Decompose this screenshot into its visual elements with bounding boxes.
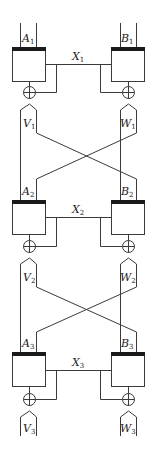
box-b2-bar: [111, 200, 145, 204]
label-b2: B2: [120, 185, 134, 199]
stage-3: A3 B3 X3 V3 W3: [12, 337, 145, 436]
label-x3: X3: [71, 356, 84, 370]
box-a2: [13, 202, 46, 235]
label-v2: V2: [23, 271, 35, 285]
box-a2-bar: [12, 200, 46, 204]
box-b3: [112, 354, 145, 387]
label-v3: V3: [23, 422, 35, 436]
label-b3: B3: [120, 337, 134, 351]
stage-1: A1 B1 X1 V1 W1: [12, 23, 145, 200]
label-a2: A2: [21, 185, 34, 199]
label-x1: X1: [71, 50, 84, 64]
label-w3: W3: [120, 422, 136, 436]
label-w1: W1: [120, 117, 136, 131]
box-a3-bar: [12, 352, 46, 356]
label-w2: W2: [120, 271, 136, 285]
label-v1: V1: [23, 117, 35, 131]
stage-2: A2 B2 X2 V2 W2: [12, 185, 145, 352]
box-b2: [112, 202, 145, 235]
label-x2: X2: [71, 203, 84, 217]
box-a1-bar: [12, 47, 46, 51]
box-b3-bar: [111, 352, 145, 356]
box-a3: [13, 354, 46, 387]
box-a1: [13, 49, 46, 82]
box-b1-bar: [111, 47, 145, 51]
box-b1: [112, 49, 145, 82]
diagram: A1 B1 X1 V1 W1 A2 B2 X2 V2 W2: [0, 0, 152, 457]
label-a3: A3: [21, 337, 34, 351]
label-b1: B1: [120, 32, 134, 46]
label-a1: A1: [21, 32, 34, 46]
